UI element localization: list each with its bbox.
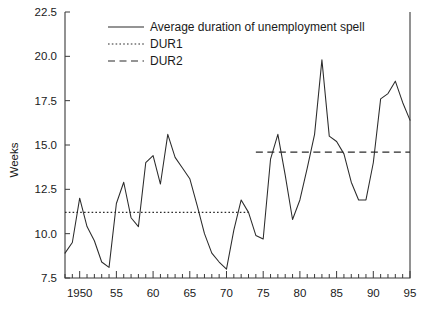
tick-marks <box>65 12 410 278</box>
y-tick-label: 7.5 <box>41 272 57 284</box>
y-tick-label: 22.5 <box>35 6 57 18</box>
y-axis-title: Weeks <box>8 142 20 177</box>
x-tick-label: 70 <box>220 287 233 299</box>
axes <box>65 12 410 278</box>
unemployment-duration-line-chart: 7.510.012.515.017.520.022.5 195055606570… <box>0 0 433 314</box>
chart-legend: Average duration of unemployment spellDU… <box>108 20 365 68</box>
y-axis-tick-labels: 7.510.012.515.017.520.022.5 <box>35 6 57 284</box>
y-tick-label: 17.5 <box>35 95 57 107</box>
legend-label: DUR1 <box>150 37 183 51</box>
x-tick-label: 95 <box>404 287 417 299</box>
y-tick-label: 12.5 <box>35 183 57 195</box>
x-axis-tick-labels: 1950556065707580859095 <box>67 287 417 299</box>
x-tick-label: 85 <box>330 287 343 299</box>
series-average-duration <box>65 60 410 269</box>
plot-frame <box>65 12 410 278</box>
x-tick-label: 1950 <box>67 287 93 299</box>
legend-label: DUR2 <box>150 54 183 68</box>
x-tick-label: 90 <box>367 287 380 299</box>
x-tick-label: 65 <box>183 287 196 299</box>
y-tick-label: 10.0 <box>35 228 57 240</box>
y-tick-label: 15.0 <box>35 139 57 151</box>
x-tick-label: 55 <box>110 287 123 299</box>
x-tick-label: 60 <box>147 287 160 299</box>
x-tick-label: 80 <box>293 287 306 299</box>
x-tick-label: 75 <box>257 287 270 299</box>
chart-figure: 7.510.012.515.017.520.022.5 195055606570… <box>0 0 433 314</box>
legend-label: Average duration of unemployment spell <box>150 20 365 34</box>
y-tick-label: 20.0 <box>35 50 57 62</box>
data-series <box>65 60 410 269</box>
